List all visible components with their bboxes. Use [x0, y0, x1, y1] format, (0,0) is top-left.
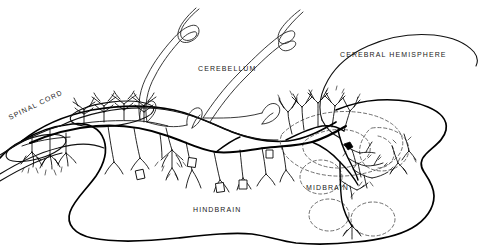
midbrain-dendrite-tree-c	[308, 90, 328, 126]
label-cerebral-hemisphere: CEREBRAL HEMISPHERE	[340, 51, 447, 58]
cerebellum-folium-right-outer	[203, 10, 300, 118]
midbrain-dendrite-tree-e	[343, 97, 360, 131]
purkinje-arbor-1	[73, 98, 95, 124]
spinal-collateral-hairs	[22, 167, 62, 175]
spinal-cord-dorsal-line	[0, 126, 60, 155]
cell-body-3	[215, 182, 224, 192]
midbrain-plexus-fine	[343, 152, 393, 186]
cerebellum-base-edge-right	[203, 113, 262, 118]
midbrain-dark-soma	[344, 142, 353, 150]
spinal-cord-ventral-line	[0, 144, 104, 174]
label-cerebellum: CEREBELLUM	[198, 65, 256, 72]
label-spinal-cord: SPINAL CORD	[7, 89, 63, 121]
cell-body-2	[187, 157, 196, 167]
tegmental-inner-arc	[378, 136, 394, 168]
hindbrain-collaterals-group	[105, 126, 294, 193]
cell-body-5	[266, 150, 273, 158]
midbrain-dendrite-tree-b	[292, 94, 312, 130]
brain-outer-contour	[22, 100, 446, 244]
brain-diagram-canvas: SPINAL CORD CEREBELLUM CEREBRAL HEMISPHE…	[0, 0, 478, 251]
collateral-1	[105, 126, 123, 174]
label-midbrain: MIDBRAIN	[306, 184, 349, 191]
label-hindbrain: HINDBRAIN	[193, 206, 241, 213]
collateral-8	[280, 146, 294, 182]
main-tract-group	[30, 125, 358, 185]
cell-body-1	[135, 169, 145, 179]
midbrain-descending-axon	[338, 130, 358, 180]
cerebellum-hook-right-inner	[262, 113, 273, 124]
spinal-neuron-dendrites-3	[58, 153, 76, 166]
cell-body-4	[239, 180, 247, 189]
midbrain-arborization-group	[278, 86, 393, 239]
midbrain-fine-twigs-upper	[278, 86, 360, 99]
midbrain-plexus-3	[354, 170, 388, 188]
brain-diagram-figure: SPINAL CORD CEREBELLUM CEREBRAL HEMISPHE…	[0, 0, 478, 251]
pontine-terminal-arbor	[343, 226, 361, 239]
tract-branch-upper	[216, 137, 240, 152]
collateral-2	[131, 128, 149, 170]
collateral-3	[160, 134, 162, 158]
tectum-inner-nucleus	[303, 129, 371, 168]
descending-pontine-axon	[340, 162, 352, 226]
